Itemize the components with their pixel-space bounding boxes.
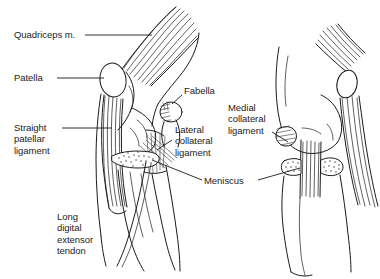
patella-shape-right (334, 68, 359, 100)
label-meniscus: Meniscus (204, 175, 244, 186)
quadriceps-muscle-right (318, 25, 363, 69)
meniscus-shape-right (281, 158, 343, 176)
knee-anatomy-figure: Quadriceps m. Patella Straight patellar … (0, 0, 380, 279)
label-patella: Patella (14, 72, 43, 83)
label-quadriceps-muscle: Quadriceps m. (14, 29, 75, 40)
label-medial-collateral-ligament: Medial collateral ligament (228, 102, 266, 136)
right-knee-medial-view (276, 24, 378, 276)
label-lateral-collateral-ligament: Lateral collateral ligament (175, 124, 213, 158)
leader-meniscus-left (152, 160, 202, 180)
label-fabella: Fabella (184, 85, 215, 96)
meniscus-shape-left (112, 151, 159, 168)
leader-fabella (172, 95, 182, 104)
label-long-digital-extensor-tendon: Long digital extensor tendon (57, 211, 93, 257)
medial-collateral-ligament-fibers (302, 141, 319, 197)
fabella-shape (160, 102, 182, 122)
label-straight-patellar-ligament: Straight patellar ligament (14, 122, 50, 156)
quadriceps-muscle (124, 7, 197, 85)
